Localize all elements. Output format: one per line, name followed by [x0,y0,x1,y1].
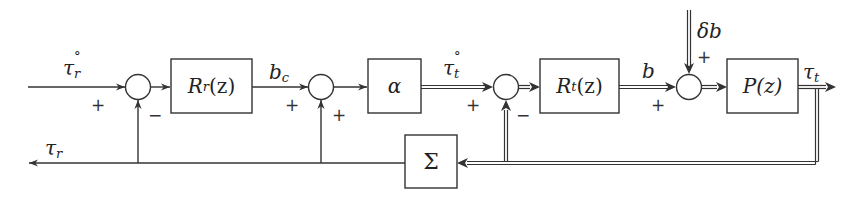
signal-tau-t: τt [803,62,819,84]
block-alpha: α [368,59,421,113]
signal-b-c-sub: c [282,70,289,85]
block-rt: Rt(z) [540,59,619,113]
signal-delta-b: δb [697,21,722,41]
sign-s4-top: + [697,49,711,66]
sign-s1-fb: − [148,107,162,124]
block-sigma: Σ [405,135,457,188]
block-sigma-label: Σ [423,149,439,174]
signal-tau-t-sub: t [814,70,819,85]
signal-b-c-main: b [269,60,282,84]
sign-s1-in: + [91,97,105,114]
signal-tau-t-ref-main: τ [443,56,454,80]
sign-s2-in: + [285,97,299,114]
signal-tau-r-main: τ [45,136,56,160]
sign-s3-in: + [466,97,480,114]
block-rt-label: R [556,74,571,98]
signal-tau-t-ref-sup: ° [454,50,461,63]
sign-s4-in: + [651,97,665,114]
signal-tau-r-ref-sup: ° [74,50,81,63]
sum-junction-3 [494,75,519,100]
signal-delta-b-main: δb [697,19,722,43]
sum-junction-1 [126,75,151,100]
signal-tau-t-ref-sub: t [454,66,459,81]
sum-junction-2 [309,75,334,100]
block-alpha-label: α [388,74,402,98]
block-rr-label: R [188,74,203,98]
sign-s2-fb: + [332,107,346,124]
signal-tau-r: τr [45,138,62,160]
sum-junction-4 [677,75,702,100]
signal-b-main: b [642,59,655,83]
block-rr: Rr(z) [171,59,252,113]
signal-tau-r-ref-sub: r [74,66,80,81]
block-p-label: P(z) [743,74,783,98]
signal-b: b [642,61,655,81]
signal-tau-r-sub: r [56,146,62,161]
signal-tau-t-ref: τ°t [443,58,459,80]
block-p: P(z) [727,59,798,113]
signal-b-c: bc [269,62,289,84]
signal-tau-t-main: τ [803,60,814,84]
block-rt-suffix: (z) [577,74,603,98]
signal-tau-r-ref-main: τ [63,56,74,80]
sign-s3-fb: − [516,107,530,124]
block-rr-suffix: (z) [209,74,235,98]
signal-tau-r-ref: τ°r [63,58,80,80]
